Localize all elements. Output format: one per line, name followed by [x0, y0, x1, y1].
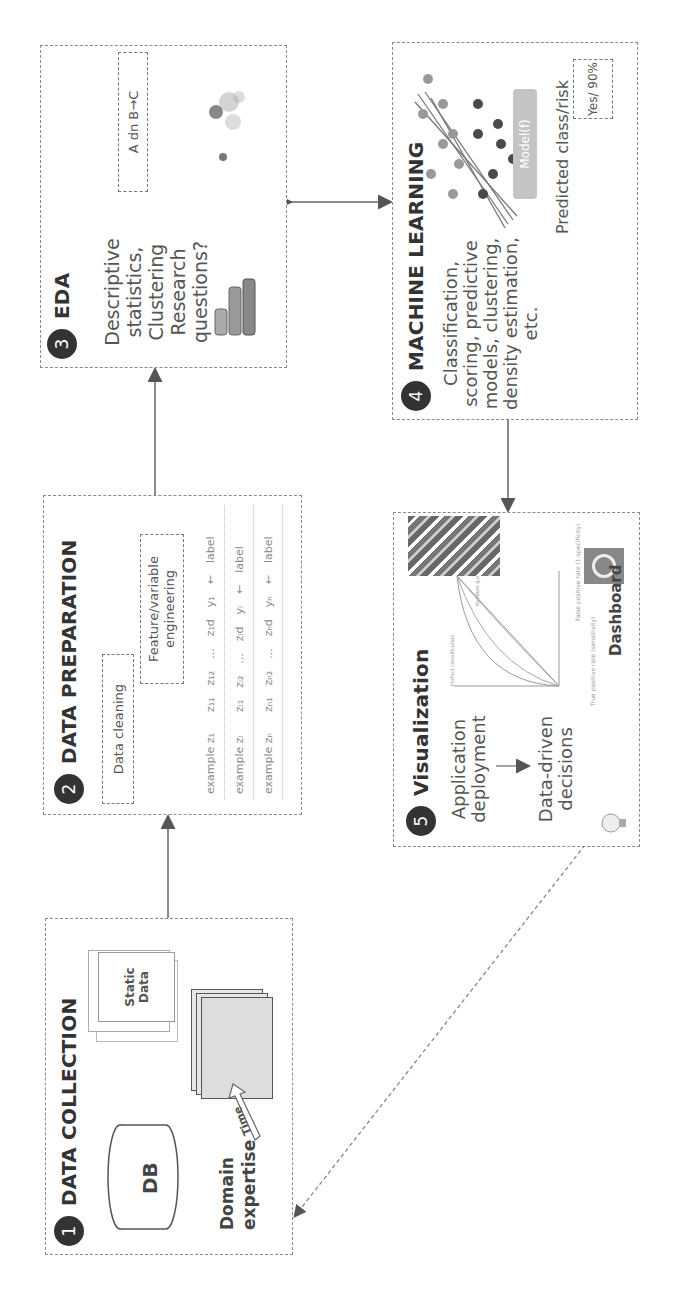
data-collection-header: 1 DATA COLLECTION [54, 998, 84, 1246]
roc-perfect-label: Perfect classification [449, 635, 455, 686]
data-collection-box: 1 DATA COLLECTION DB Static Data Time Do… [45, 918, 293, 1255]
roc-y-axis-label: True positive rate (sensitivity) [589, 617, 596, 706]
step-title: DATA COLLECTION [57, 998, 81, 1206]
cluster-scatter-icon [161, 77, 251, 197]
step-badge: 4 [401, 381, 431, 411]
step-badge: 1 [54, 1216, 84, 1246]
prediction-value-box: Yes/ 90% [573, 59, 613, 119]
data-cleaning-box: Data cleaning [102, 654, 134, 804]
db-label: DB [138, 1162, 162, 1194]
lightbulb-icon [599, 810, 629, 836]
eda-box: 3 EDA Descriptive statistics, Clustering… [40, 45, 287, 368]
visualization-header: 5 Visualization [406, 649, 436, 836]
table-row: example zₙ zₙ₁ zₙ₂ ... zₙd yₙ ← label [254, 505, 283, 800]
feature-engineering-box: Feature/variable engineering [140, 534, 184, 684]
step-badge: 5 [406, 806, 436, 836]
data-preparation-box: 2 DATA PREPARATION Data cleaning Feature… [43, 495, 302, 815]
roc-x-axis-label: False positive rate (1-specificity) [574, 524, 581, 621]
ml-description: Classification, scoring, predictive mode… [441, 236, 541, 411]
roc-curve-chart [449, 566, 579, 696]
deployment-arrow-icon [494, 756, 534, 776]
association-rule-box: A dn B→C [118, 52, 148, 192]
data-science-workflow-diagram: 1 DATA COLLECTION DB Static Data Time Do… [0, 0, 676, 1312]
eda-description: Descriptive statistics, Clustering Resea… [101, 227, 211, 357]
static-data-label: Static Data [98, 952, 175, 1022]
app-deployment-label: Application deployment [449, 704, 489, 834]
machine-learning-box: 4 MACHINE LEARNING Classification, scori… [392, 42, 638, 420]
dashboard-label: Dashboard [607, 565, 625, 656]
visualization-box: 5 Visualization Application deployment D… [393, 512, 640, 847]
step-badge: 2 [54, 774, 84, 804]
step-title: DATA PREPARATION [57, 540, 81, 764]
eda-header: 3 EDA [47, 273, 77, 359]
step-title: Visualization [409, 649, 433, 796]
table-row: example z₁ z₁₁ z₁₂ ... z₁d y₁ ← label [196, 505, 225, 800]
data-preparation-header: 2 DATA PREPARATION [54, 540, 84, 804]
heatmap-image [408, 516, 500, 576]
bar-chart-icon [209, 277, 259, 337]
model-box: Model(f) [513, 89, 537, 199]
data-driven-decisions-label: Data-driven decisions [536, 704, 576, 834]
domain-expertise-label: Domain expertise [216, 1130, 260, 1230]
feature-table: example z₁ z₁₁ z₁₂ ... z₁d y₁ ← label ex… [196, 505, 283, 800]
step-badge: 3 [47, 329, 77, 359]
predicted-class-label: Predicted class/risk [553, 80, 572, 234]
table-row: example zᵢ zᵢ₁ zᵢ₂ ... zᵢd yᵢ ← label [225, 505, 254, 800]
step-title: EDA [50, 273, 74, 319]
